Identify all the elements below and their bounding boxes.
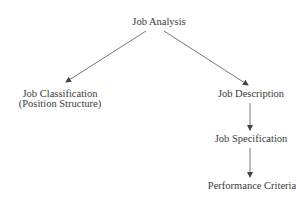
arrow-root-to-classification [66, 31, 146, 82]
node-performance-criteria: Performance Criteria [208, 181, 296, 191]
node-job-analysis: Job Analysis [132, 17, 185, 27]
node-job-specification: Job Specification [215, 134, 288, 144]
node-position-structure: (Position Structure) [19, 99, 102, 109]
node-job-description: Job Description [218, 89, 284, 99]
arrow-root-to-description [164, 31, 248, 85]
